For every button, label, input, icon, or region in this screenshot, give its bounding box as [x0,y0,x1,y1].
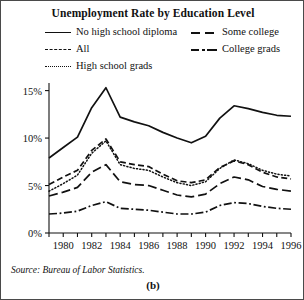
y-tick-label: 15% [23,86,43,97]
series-line-high-school-grads [49,141,291,191]
data-series-group [49,88,291,214]
figure-panel: Unemployment Rate by Education Level No … [0,0,304,300]
source-note: Source: Bureau of Labor Statistics. [11,265,145,275]
x-axis: 198019821984198619881990199219941996 [49,233,302,251]
x-tick-label: 1980 [53,240,74,251]
line-chart-svg: 0%5%10%15% 19801982198419861988199019921… [1,1,304,300]
series-line-no-high-school-diploma [49,88,291,158]
series-line-some-college [49,165,291,197]
series-line-college-grads [49,202,291,214]
x-tick-label: 1992 [224,240,245,251]
x-tick-label: 1984 [110,240,132,251]
x-tick-label: 1982 [81,240,102,251]
x-tick-label: 1988 [167,240,188,251]
x-tick-label: 1994 [252,240,274,251]
y-tick-label: 5% [28,181,42,192]
y-axis: 0%5%10%15% [23,83,49,239]
x-tick-label: 1986 [138,240,159,251]
plot-area: 0%5%10%15% 19801982198419861988199019921… [1,1,304,300]
x-tick-label: 1996 [281,240,302,251]
y-tick-label: 10% [23,133,43,144]
series-line-all [49,139,291,185]
x-tick-label: 1990 [195,240,216,251]
panel-label: (b) [1,279,304,291]
y-tick-label: 0% [28,228,42,239]
